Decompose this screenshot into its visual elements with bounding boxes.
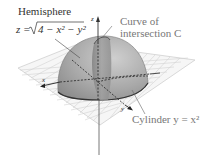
hemisphere-cylinder-figure [0, 0, 214, 167]
hemisphere-equation-rhs: 4 − x² − y² [38, 23, 86, 35]
curve-label-line1: Curve of [120, 15, 159, 27]
cylinder-label: Cylinder y = x² [132, 113, 199, 125]
z-axis-label: z [91, 15, 94, 23]
y-axis-label: y [121, 105, 124, 113]
hemisphere-equation-lhs: z = [16, 23, 30, 35]
hemisphere-label: Hemisphere [18, 5, 71, 17]
curve-label-line2: intersection C [120, 27, 181, 39]
x-axis-label: x [42, 76, 45, 84]
